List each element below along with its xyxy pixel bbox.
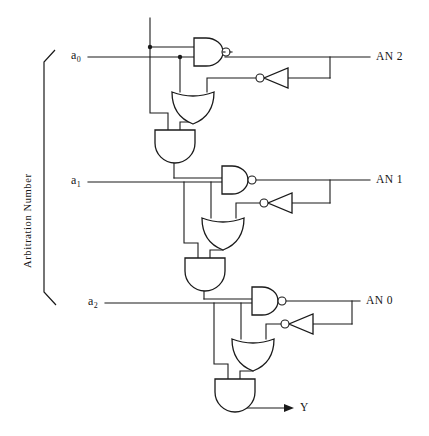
nand-stage-0: [194, 38, 230, 66]
nand-stage-2: [252, 287, 286, 315]
inverter-stage-0: [256, 68, 288, 88]
input-a0-sub: 0: [77, 55, 81, 64]
arbitration-number-label: Arbitration Number: [22, 174, 33, 269]
input-label-a0: a0: [71, 48, 81, 64]
input-label-a1: a1: [71, 173, 81, 189]
or-stage-1: [202, 218, 244, 250]
circuit-diagram: Arbitration Number a0 a1 a2 AN 2 AN 1 AN…: [0, 0, 429, 436]
output-label-an2: AN 2: [376, 50, 403, 62]
input-a1-sub: 1: [77, 180, 81, 189]
or-stage-0: [172, 92, 214, 124]
and-stage-1: [185, 258, 225, 291]
inverter-stage-1: [260, 193, 292, 213]
output-label-an1: AN 1: [376, 173, 403, 185]
output-label-y: Y: [300, 401, 309, 413]
arbitration-number-bracket: [44, 50, 56, 305]
nand-stage-1: [222, 166, 256, 194]
and-stage-2: [215, 379, 255, 412]
or-stage-2: [232, 339, 274, 371]
input-label-a2: a2: [88, 294, 98, 310]
output-label-an0: AN 0: [366, 294, 393, 306]
input-a2-sub: 2: [94, 301, 98, 310]
stage-0-wires: [88, 18, 370, 178]
and-stage-0: [155, 130, 195, 163]
circuit-svg: [0, 0, 429, 436]
inverter-stage-2: [281, 314, 313, 334]
